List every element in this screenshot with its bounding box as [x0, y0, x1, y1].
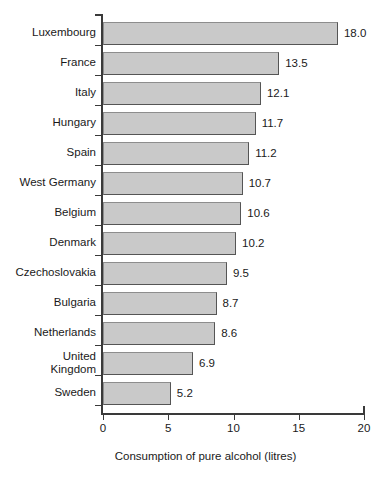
category-tick: [95, 105, 102, 106]
x-tick-label: 20: [358, 422, 371, 434]
bar: [103, 22, 338, 45]
x-tick-label: 5: [165, 422, 171, 434]
category-label: Denmark: [49, 236, 96, 249]
category-tick: [95, 255, 102, 256]
bar: [103, 202, 241, 225]
x-tick: [168, 413, 169, 420]
category-label: United Kingdom: [51, 350, 96, 376]
bar-chart: Luxembourg18.0France13.5Italy12.1Hungary…: [0, 0, 385, 479]
category-label: Luxembourg: [32, 26, 96, 39]
category-tick: [95, 375, 102, 376]
value-label: 8.6: [221, 327, 237, 339]
bar: [103, 232, 236, 255]
x-tick: [364, 413, 365, 420]
x-tick: [234, 413, 235, 420]
value-label: 10.2: [242, 237, 264, 249]
value-label: 5.2: [177, 387, 193, 399]
bar: [103, 142, 249, 165]
category-tick: [95, 135, 102, 136]
x-tick-label: 15: [292, 422, 305, 434]
category-label: Italy: [75, 86, 96, 99]
category-label: France: [60, 56, 96, 69]
bar: [103, 52, 279, 75]
bar: [103, 322, 215, 345]
value-label: 13.5: [285, 57, 307, 69]
category-tick: [95, 285, 102, 286]
x-axis-title: Consumption of pure alcohol (litres): [0, 450, 385, 462]
x-tick: [103, 413, 104, 420]
value-label: 11.7: [262, 117, 284, 129]
category-label: Sweden: [54, 386, 96, 399]
value-label: 12.1: [267, 87, 289, 99]
bar: [103, 172, 243, 195]
value-label: 18.0: [344, 27, 366, 39]
value-label: 10.7: [249, 177, 271, 189]
bar: [103, 112, 256, 135]
value-label: 10.6: [247, 207, 269, 219]
category-tick: [95, 45, 102, 46]
category-tick: [95, 165, 102, 166]
category-label: West Germany: [20, 176, 96, 189]
bar: [103, 262, 227, 285]
category-tick: [95, 195, 102, 196]
category-label: Czechoslovakia: [15, 266, 96, 279]
value-label: 6.9: [199, 357, 215, 369]
value-label: 8.7: [223, 297, 239, 309]
category-tick: [95, 225, 102, 226]
x-tick-label: 0: [100, 422, 106, 434]
category-label: Belgium: [54, 206, 96, 219]
x-tick-label: 10: [227, 422, 240, 434]
value-label: 9.5: [233, 267, 249, 279]
category-tick: [95, 75, 102, 76]
bar: [103, 352, 193, 375]
bar: [103, 292, 217, 315]
category-tick: [95, 345, 102, 346]
category-label: Hungary: [53, 116, 96, 129]
x-tick: [299, 413, 300, 420]
bar: [103, 82, 261, 105]
category-tick: [95, 315, 102, 316]
value-label: 11.2: [255, 147, 277, 159]
category-label: Bulgaria: [54, 296, 96, 309]
category-label: Spain: [67, 146, 96, 159]
category-tick: [95, 405, 102, 406]
y-axis-top-tick: [95, 14, 102, 16]
category-label: Netherlands: [34, 326, 96, 339]
bar: [103, 382, 171, 405]
